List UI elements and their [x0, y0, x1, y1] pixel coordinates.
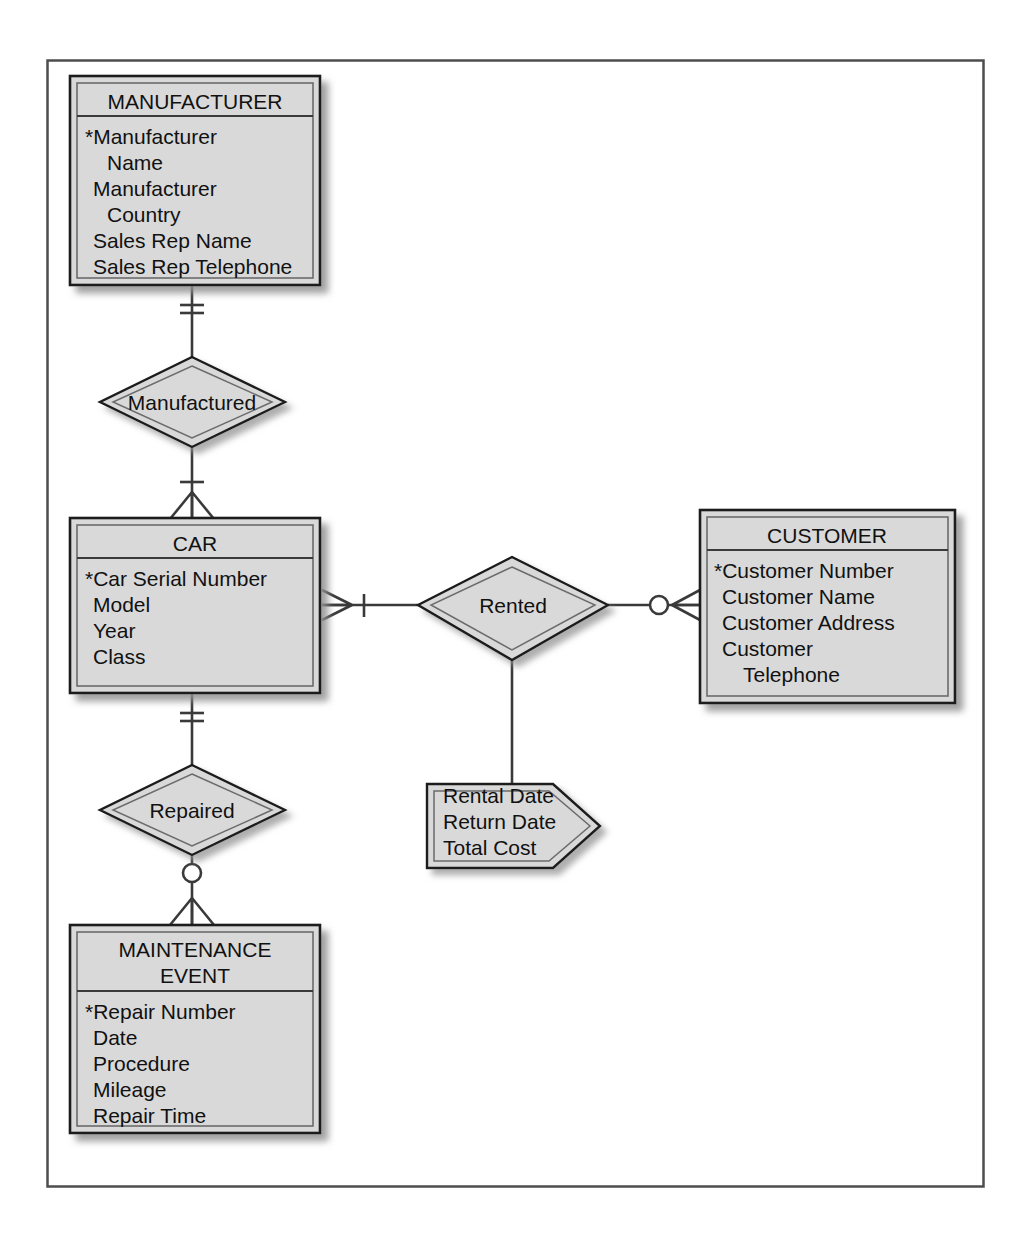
cardinality-circle-customer — [650, 596, 668, 614]
relationship-rented[interactable]: Rented — [418, 557, 608, 660]
relationship-repaired-label: Repaired — [149, 799, 234, 822]
entity-car-attr-2: Year — [93, 619, 135, 642]
relationship-attribute-line-0: Rental Date — [443, 784, 554, 807]
entity-maintenance-event-title-line2: EVENT — [160, 964, 230, 987]
entity-customer-attr-4: Telephone — [743, 663, 840, 686]
entity-manufacturer-attr-1: Name — [107, 151, 163, 174]
crowsfoot-maintenance — [170, 898, 214, 925]
relationship-manufactured-label: Manufactured — [128, 391, 256, 414]
entity-maintenance-event-attr-1: Date — [93, 1026, 137, 1049]
entity-maintenance-event-attr-4: Repair Time — [93, 1104, 206, 1127]
relationship-attribute-line-1: Return Date — [443, 810, 556, 833]
relationship-attributes-rented[interactable]: Rental Date Return Date Total Cost — [427, 784, 600, 868]
entity-maintenance-event-attr-2: Procedure — [93, 1052, 190, 1075]
entity-maintenance-event-title-line1: MAINTENANCE — [119, 938, 272, 961]
cardinality-circle-maintenance — [183, 864, 201, 882]
entity-manufacturer-attr-2: Manufacturer — [93, 177, 217, 200]
entity-manufacturer-attr-0: *Manufacturer — [85, 125, 217, 148]
entity-customer-attr-2: Customer Address — [722, 611, 895, 634]
entity-customer-title: CUSTOMER — [767, 524, 887, 547]
crowsfoot-car-rented — [322, 590, 352, 620]
entity-manufacturer-attr-4: Sales Rep Name — [93, 229, 252, 252]
entity-customer-attr-0: *Customer Number — [714, 559, 894, 582]
entity-manufacturer-title: MANUFACTURER — [107, 90, 282, 113]
crowsfoot-customer — [672, 590, 700, 620]
crowsfoot-car-top — [170, 492, 214, 519]
entity-car-title: CAR — [173, 532, 217, 555]
entity-manufacturer[interactable]: MANUFACTURER *Manufacturer Name Manufact… — [70, 76, 320, 285]
relationship-repaired[interactable]: Repaired — [100, 765, 285, 855]
entity-car-attr-1: Model — [93, 593, 150, 616]
entity-manufacturer-attr-5: Sales Rep Telephone — [93, 255, 292, 278]
er-diagram-canvas: MANUFACTURER *Manufacturer Name Manufact… — [0, 0, 1033, 1253]
entity-customer[interactable]: CUSTOMER *Customer Number Customer Name … — [700, 510, 955, 703]
entity-customer-attr-1: Customer Name — [722, 585, 875, 608]
relationship-manufactured[interactable]: Manufactured — [100, 357, 285, 447]
entity-manufacturer-attr-3: Country — [107, 203, 181, 226]
entity-car-attr-3: Class — [93, 645, 146, 668]
entity-maintenance-event[interactable]: MAINTENANCE EVENT *Repair Number Date Pr… — [70, 925, 320, 1133]
entity-car-attr-0: *Car Serial Number — [85, 567, 267, 590]
er-diagram-svg: MANUFACTURER *Manufacturer Name Manufact… — [0, 0, 1033, 1253]
entity-maintenance-event-attr-0: *Repair Number — [85, 1000, 236, 1023]
relationship-rented-label: Rented — [479, 594, 547, 617]
relationship-attribute-line-2: Total Cost — [443, 836, 537, 859]
entity-customer-attr-3: Customer — [722, 637, 813, 660]
entity-maintenance-event-attr-3: Mileage — [93, 1078, 167, 1101]
entity-car[interactable]: CAR *Car Serial Number Model Year Class — [70, 518, 320, 693]
